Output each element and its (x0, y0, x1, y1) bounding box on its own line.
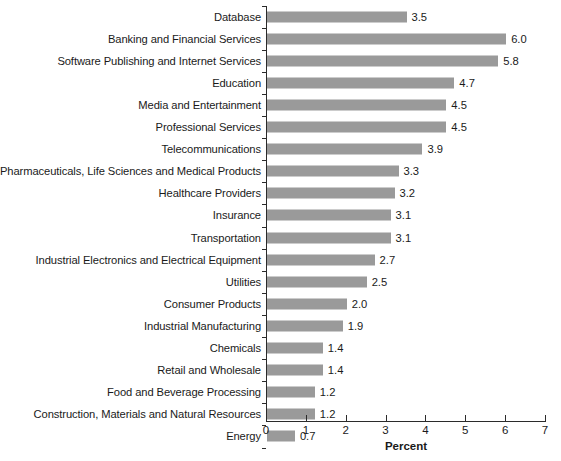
bar (267, 387, 315, 398)
y-axis-tick (262, 138, 266, 139)
bar-with-value: 3.9 (267, 144, 443, 155)
bar-value-label: 3.1 (396, 210, 412, 221)
x-axis-tick-label: 2 (336, 424, 356, 437)
x-axis-tick (465, 415, 466, 421)
y-axis-tick (262, 50, 266, 51)
bar (267, 343, 323, 354)
category-label: Professional Services (156, 121, 261, 133)
bar-value-label: 2.7 (380, 254, 396, 265)
bar-with-value: 2.7 (267, 254, 395, 265)
bar (267, 276, 367, 287)
bar-value-label: 2.5 (372, 276, 388, 287)
x-axis-tick-label: 5 (455, 424, 475, 437)
y-axis-tick (262, 94, 266, 95)
chart-bar-row: Software Publishing and Internet Service… (0, 50, 561, 72)
chart-bar-row: Healthcare Providers3.2 (0, 182, 561, 204)
bar-with-value: 3.1 (267, 210, 411, 221)
chart-bar-row: Database3.5 (0, 6, 561, 28)
bar-with-value: 2.5 (267, 276, 387, 287)
bar-with-value: 4.5 (267, 122, 467, 133)
bar-value-label: 1.4 (328, 365, 344, 376)
bar (267, 188, 395, 199)
x-axis-title: Percent (385, 440, 427, 452)
chart-bar-row: Banking and Financial Services6.0 (0, 28, 561, 50)
category-label: Food and Beverage Processing (107, 386, 261, 398)
bar (267, 409, 315, 420)
y-axis-line (266, 6, 267, 421)
bar-value-label: 6.0 (511, 33, 527, 44)
bar-with-value: 4.5 (267, 99, 467, 110)
y-axis-tick (262, 448, 266, 449)
x-axis-line (266, 421, 546, 422)
bar (267, 365, 323, 376)
x-axis-tick-label: 7 (535, 424, 555, 437)
bar-with-value: 3.3 (267, 166, 419, 177)
y-axis-tick (262, 6, 266, 7)
category-label: Construction, Materials and Natural Reso… (34, 408, 261, 420)
y-axis-tick (262, 271, 266, 272)
y-axis-tick (262, 116, 266, 117)
chart-bar-row: Consumer Products2.0 (0, 293, 561, 315)
chart-bar-row: Professional Services4.5 (0, 116, 561, 138)
bar-with-value: 1.2 (267, 409, 335, 420)
x-axis-tick (386, 415, 387, 421)
category-label: Healthcare Providers (159, 187, 261, 199)
category-label: Consumer Products (164, 298, 261, 310)
y-axis-tick (262, 293, 266, 294)
bar-value-label: 1.2 (320, 409, 336, 420)
y-axis-tick (262, 28, 266, 29)
bar (267, 254, 375, 265)
chart-bar-row: Media and Entertainment4.5 (0, 94, 561, 116)
x-axis-tick-label: 3 (376, 424, 396, 437)
bar-value-label: 4.5 (451, 99, 467, 110)
x-axis-tick-label: 0 (256, 424, 276, 437)
bar-value-label: 4.5 (451, 122, 467, 133)
x-axis-tick (545, 415, 546, 421)
bar-value-label: 1.4 (328, 343, 344, 354)
y-axis-tick (262, 227, 266, 228)
y-axis-tick (262, 381, 266, 382)
category-label: Software Publishing and Internet Service… (57, 55, 261, 67)
bar-value-label: 5.8 (503, 55, 519, 66)
category-label: Telecommunications (161, 143, 261, 155)
category-label: Transportation (191, 232, 261, 244)
y-axis-tick (262, 403, 266, 404)
bar-value-label: 3.1 (396, 232, 412, 243)
x-axis-tick (306, 415, 307, 421)
chart-bar-row: Industrial Electronics and Electrical Eq… (0, 249, 561, 271)
category-label: Banking and Financial Services (108, 33, 261, 45)
y-axis-tick (262, 315, 266, 316)
bar (267, 232, 391, 243)
chart-bar-row: Construction, Materials and Natural Reso… (0, 403, 561, 425)
category-label: Chemicals (210, 342, 261, 354)
chart-bar-row: Energy0.7 (0, 425, 561, 447)
chart-bar-row: Retail and Wholesale1.4 (0, 359, 561, 381)
bar (267, 11, 407, 22)
bar-with-value: 5.8 (267, 55, 519, 66)
bar-with-value: 3.2 (267, 188, 415, 199)
x-axis-tick (505, 415, 506, 421)
bar-with-value: 3.5 (267, 11, 427, 22)
bar (267, 77, 454, 88)
category-label: Database (214, 11, 261, 23)
category-label: Utilities (226, 276, 261, 288)
category-label: Pharmaceuticals, Life Sciences and Medic… (0, 165, 261, 177)
x-axis-tick-label: 6 (495, 424, 515, 437)
bar (267, 122, 446, 133)
bar (267, 144, 422, 155)
bar (267, 55, 498, 66)
y-axis-tick (262, 182, 266, 183)
chart-bar-row: Chemicals1.4 (0, 337, 561, 359)
y-axis-tick (262, 359, 266, 360)
x-axis-tick-label: 1 (296, 424, 316, 437)
chart-bar-row: Food and Beverage Processing1.2 (0, 381, 561, 403)
y-axis-tick (262, 204, 266, 205)
bar-with-value: 1.9 (267, 320, 363, 331)
y-axis-tick (262, 160, 266, 161)
x-axis-tick (266, 415, 267, 421)
bar-with-value: 1.2 (267, 387, 335, 398)
chart-bar-row: Industrial Manufacturing1.9 (0, 315, 561, 337)
chart-bar-row: Pharmaceuticals, Life Sciences and Medic… (0, 160, 561, 182)
category-label: Media and Entertainment (138, 99, 261, 111)
bar (267, 33, 506, 44)
